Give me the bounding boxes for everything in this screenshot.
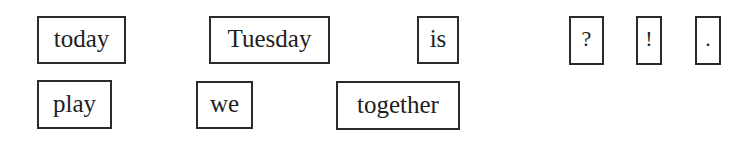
word-card-today[interactable]: today <box>37 16 126 64</box>
word-card-label: together <box>357 92 439 117</box>
word-card-label: Tuesday <box>228 26 312 51</box>
word-card-label: today <box>54 26 110 51</box>
word-card-question-mark[interactable]: ? <box>569 16 604 65</box>
word-card-we[interactable]: we <box>196 81 253 129</box>
word-card-label: play <box>53 91 96 116</box>
word-card-tuesday[interactable]: Tuesday <box>209 16 330 64</box>
word-card-label: we <box>210 91 239 116</box>
word-card-period[interactable]: . <box>695 16 721 65</box>
word-card-exclamation-mark[interactable]: ! <box>636 16 662 65</box>
word-card-label: ! <box>645 28 652 50</box>
word-card-play[interactable]: play <box>37 80 112 129</box>
word-card-label: ? <box>582 28 592 50</box>
word-card-label: is <box>430 26 447 51</box>
word-card-label: . <box>705 28 711 50</box>
word-card-together[interactable]: together <box>336 81 460 130</box>
word-card-is[interactable]: is <box>417 16 459 64</box>
